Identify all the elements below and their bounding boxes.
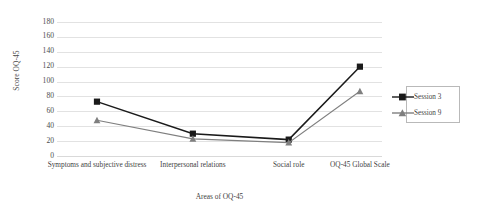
- y-axis-tick-labels: 020406080100120140160180: [26, 0, 54, 214]
- y-tick-label: 0: [26, 152, 54, 160]
- y-tick-label: 40: [26, 122, 54, 130]
- legend-label-session-3: Session 3: [414, 92, 441, 102]
- y-tick-label: 100: [26, 77, 54, 85]
- gridline: [57, 156, 382, 157]
- series-layer: [57, 22, 382, 156]
- oq45-line-chart: Score OQ-45 020406080100120140160180 Sym…: [0, 0, 479, 214]
- y-tick-label: 20: [26, 137, 54, 145]
- x-tick-label: Interpersonal relations: [156, 160, 230, 170]
- data-point-triangle: [357, 88, 364, 95]
- data-point-square: [357, 64, 363, 70]
- chart-legend: Session 3 Session 9: [406, 86, 460, 123]
- data-point-triangle: [94, 117, 101, 124]
- legend-label-session-9: Session 9: [414, 108, 441, 118]
- series-line-session-3: [97, 67, 360, 140]
- y-tick-label: 80: [26, 92, 54, 100]
- series-line-session-9: [97, 91, 360, 142]
- y-tick-label: 180: [26, 18, 54, 26]
- legend-item-session-3: Session 3: [410, 90, 460, 104]
- legend-item-session-9: Session 9: [410, 106, 460, 120]
- x-tick-label: Symptoms and subjective distress: [43, 160, 151, 170]
- legend-marker-triangle-icon: [392, 106, 414, 120]
- legend-marker-square-icon: [392, 90, 414, 104]
- x-axis-tick-labels: Symptoms and subjective distressInterper…: [57, 160, 382, 186]
- y-axis-title: Score OQ-45: [12, 41, 21, 101]
- y-tick-label: 120: [26, 62, 54, 70]
- x-tick-label: OQ-45 Global Scale: [316, 160, 404, 170]
- y-tick-label: 160: [26, 32, 54, 40]
- y-tick-label: 60: [26, 107, 54, 115]
- x-tick-label: Social role: [256, 160, 322, 170]
- y-tick-label: 140: [26, 47, 54, 55]
- plot-area: [57, 22, 382, 156]
- x-axis-title: Areas of OQ-45: [57, 192, 382, 201]
- data-point-square: [94, 99, 100, 105]
